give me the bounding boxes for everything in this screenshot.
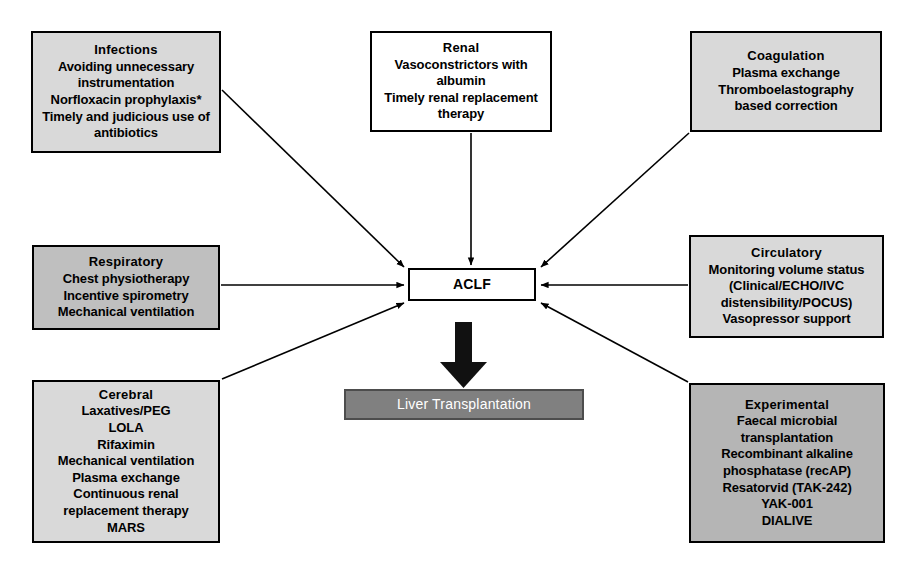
node-circulatory-line-1: (Clinical/ECHO/IVC [729, 278, 844, 295]
node-experimental[interactable]: Experimental Faecal microbial transplant… [689, 383, 885, 543]
node-coagulation-title: Coagulation [747, 48, 824, 65]
arrow-aclf-to-transplant [440, 322, 487, 388]
node-cerebral-title: Cerebral [99, 387, 153, 404]
node-experimental-line-6: DIALIVE [762, 513, 813, 530]
node-experimental-line-0: Faecal microbial [737, 413, 837, 430]
node-cerebral-line-1: LOLA [109, 420, 144, 437]
node-coagulation[interactable]: Coagulation Plasma exchange Thromboelast… [690, 31, 882, 132]
arrow-cerebral-to-aclf [222, 303, 404, 379]
node-experimental-title: Experimental [745, 397, 829, 414]
node-experimental-line-4: Resatorvid (TAK-242) [722, 480, 851, 497]
node-respiratory-title: Respiratory [89, 254, 163, 271]
node-renal[interactable]: Renal Vasoconstrictors with albumin Time… [370, 31, 552, 132]
node-renal-line-3: therapy [438, 106, 484, 123]
node-coagulation-line-1: Thromboelastography [718, 82, 853, 99]
node-respiratory-line-0: Chest physiotherapy [63, 271, 190, 288]
node-respiratory-line-2: Mechanical ventilation [58, 304, 195, 321]
node-circulatory-line-0: Monitoring volume status [709, 262, 865, 279]
node-cerebral-line-7: MARS [107, 520, 145, 537]
node-respiratory[interactable]: Respiratory Chest physiotherapy Incentiv… [32, 245, 220, 330]
node-infections[interactable]: Infections Avoiding unnecessary instrume… [31, 31, 221, 153]
node-liver-transplantation[interactable]: Liver Transplantation [344, 389, 584, 420]
node-infections-line-2: Norfloxacin prophylaxis* [51, 92, 202, 109]
node-experimental-line-3: phosphatase (recAP) [723, 463, 851, 480]
node-infections-line-0: Avoiding unnecessary [58, 59, 194, 76]
node-infections-line-4: antibiotics [94, 125, 158, 142]
node-circulatory-line-2: distensibility/POCUS) [721, 295, 853, 312]
node-cerebral-line-6: replacement therapy [63, 503, 188, 520]
node-respiratory-line-1: Incentive spirometry [63, 288, 188, 305]
node-cerebral-line-4: Plasma exchange [72, 470, 180, 487]
node-renal-line-2: Timely renal replacement [384, 90, 537, 107]
node-coagulation-line-0: Plasma exchange [732, 65, 840, 82]
node-aclf-title: ACLF [453, 276, 491, 294]
node-infections-line-1: instrumentation [78, 75, 175, 92]
node-circulatory[interactable]: Circulatory Monitoring volume status (Cl… [689, 235, 884, 338]
node-cerebral-line-5: Continuous renal [73, 486, 178, 503]
node-renal-line-1: albumin [436, 73, 485, 90]
node-cerebral-line-2: Rifaximin [97, 437, 155, 454]
node-aclf[interactable]: ACLF [408, 268, 536, 301]
node-circulatory-line-3: Vasopressor support [722, 311, 850, 328]
node-experimental-line-2: Recombinant alkaline [721, 446, 853, 463]
node-experimental-line-5: YAK-001 [761, 496, 813, 513]
node-infections-title: Infections [94, 42, 157, 59]
aclf-management-diagram: Infections Avoiding unnecessary instrume… [0, 0, 913, 570]
node-liver-transplantation-title: Liver Transplantation [397, 396, 531, 414]
node-circulatory-title: Circulatory [751, 245, 822, 262]
node-infections-line-3: Timely and judicious use of [42, 109, 210, 126]
node-renal-line-0: Vasoconstrictors with [395, 57, 528, 74]
node-coagulation-line-2: based correction [734, 98, 837, 115]
arrow-experimental-to-aclf [541, 303, 688, 382]
node-cerebral[interactable]: Cerebral Laxatives/PEG LOLA Rifaximin Me… [32, 380, 220, 543]
node-experimental-line-1: transplantation [741, 430, 833, 447]
node-renal-title: Renal [443, 40, 479, 57]
node-cerebral-line-3: Mechanical ventilation [58, 453, 195, 470]
arrow-coagulation-to-aclf [541, 133, 689, 267]
node-cerebral-line-0: Laxatives/PEG [81, 403, 170, 420]
